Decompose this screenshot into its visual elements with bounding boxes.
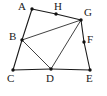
vertex-point-B [20, 38, 23, 41]
vertex-label-E: E [86, 73, 93, 84]
edges-layer [13, 9, 90, 70]
segment-G-F [81, 20, 84, 42]
vertices-layer [11, 7, 91, 71]
segment-B-D [22, 40, 51, 69]
vertex-point-A [30, 7, 33, 10]
vertex-label-F: F [87, 34, 93, 45]
segment-D-E [51, 69, 90, 70]
segment-B-C [13, 40, 22, 70]
vertex-point-H [54, 12, 57, 15]
segment-A-B [22, 9, 32, 40]
vertex-label-A: A [18, 1, 26, 12]
vertex-label-B: B [9, 31, 16, 42]
segment-D-G [51, 20, 81, 69]
vertex-label-G: G [84, 7, 92, 18]
segment-B-G [22, 20, 81, 40]
vertex-point-D [49, 67, 52, 70]
segment-C-D [13, 69, 51, 70]
geometry-figure: AHGBFCDE [0, 0, 107, 96]
vertex-label-H: H [54, 1, 62, 12]
vertex-label-C: C [7, 73, 14, 84]
vertex-point-F [82, 40, 85, 43]
segment-H-G [56, 14, 81, 20]
segment-F-E [84, 42, 90, 70]
vertex-point-G [79, 18, 82, 21]
vertex-label-D: D [46, 73, 54, 84]
segment-A-H [32, 9, 56, 14]
